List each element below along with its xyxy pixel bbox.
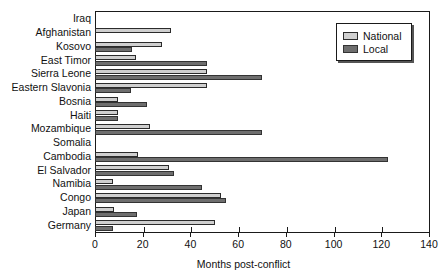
y-axis-label-mozambique: Mozambique bbox=[0, 123, 91, 134]
bar-group-somalia bbox=[95, 136, 429, 150]
bar-local-haiti bbox=[95, 116, 118, 121]
bar-group-el-salvador bbox=[95, 163, 429, 177]
y-axis-label-east-timor: East Timor bbox=[0, 55, 91, 66]
bar-group-sierra-leone bbox=[95, 67, 429, 81]
y-axis-label-afghanistan: Afghanistan bbox=[0, 27, 91, 38]
bar-national-el-salvador bbox=[95, 165, 169, 170]
x-tick-label-120: 120 bbox=[373, 238, 391, 250]
bar-national-east-timor bbox=[95, 55, 136, 60]
y-axis-label-somalia: Somalia bbox=[0, 137, 91, 148]
x-tick-label-20: 20 bbox=[137, 238, 149, 250]
bar-national-afghanistan bbox=[95, 28, 171, 33]
x-tick-label-0: 0 bbox=[92, 238, 98, 250]
bar-group-haiti bbox=[95, 108, 429, 122]
y-axis-label-cambodia: Cambodia bbox=[0, 151, 91, 162]
bar-national-sierra-leone bbox=[95, 69, 207, 74]
legend-swatch-national-icon bbox=[343, 32, 358, 40]
x-tick-120 bbox=[381, 233, 382, 237]
x-tick-140 bbox=[429, 233, 430, 237]
x-tick-100 bbox=[334, 233, 335, 237]
y-axis-label-el-salvador: El Salvador bbox=[0, 165, 91, 176]
bar-group-eastern-slavonia bbox=[95, 81, 429, 95]
bar-local-germany bbox=[95, 226, 113, 231]
y-axis-label-sierra-leone: Sierra Leone bbox=[0, 68, 91, 79]
y-axis-label-kosovo: Kosovo bbox=[0, 41, 91, 52]
y-axis-label-germany: Germany bbox=[0, 220, 91, 231]
bar-local-namibia bbox=[95, 185, 202, 190]
bar-group-bosnia bbox=[95, 95, 429, 109]
y-axis-label-bosnia: Bosnia bbox=[0, 96, 91, 107]
x-tick-label-60: 60 bbox=[232, 238, 244, 250]
bar-group-namibia bbox=[95, 177, 429, 191]
bar-local-sierra-leone bbox=[95, 75, 262, 80]
bar-group-japan bbox=[95, 205, 429, 219]
bar-local-eastern-slavonia bbox=[95, 88, 131, 93]
x-tick-40 bbox=[190, 233, 191, 237]
x-tick-0 bbox=[95, 233, 96, 237]
x-tick-label-140: 140 bbox=[420, 238, 438, 250]
x-axis-title: Months post-conflict bbox=[0, 258, 442, 270]
x-tick-label-80: 80 bbox=[280, 238, 292, 250]
bar-group-mozambique bbox=[95, 122, 429, 136]
legend-label-national: National bbox=[363, 30, 402, 42]
x-tick-label-100: 100 bbox=[325, 238, 343, 250]
x-tick-label-40: 40 bbox=[185, 238, 197, 250]
bar-national-germany bbox=[95, 220, 215, 225]
bar-national-cambodia bbox=[95, 152, 138, 157]
bar-group-congo bbox=[95, 191, 429, 205]
bar-local-el-salvador bbox=[95, 171, 174, 176]
bar-national-haiti bbox=[95, 110, 118, 115]
y-axis-category-labels: IraqAfghanistanKosovoEast TimorSierra Le… bbox=[0, 12, 91, 232]
x-tick-60 bbox=[238, 233, 239, 237]
bar-group-cambodia bbox=[95, 150, 429, 164]
legend: National Local bbox=[336, 23, 412, 61]
bar-group-germany bbox=[95, 218, 429, 232]
bar-national-mozambique bbox=[95, 124, 150, 129]
bar-national-kosovo bbox=[95, 42, 162, 47]
y-axis-label-eastern-slavonia: Eastern Slavonia bbox=[0, 82, 91, 93]
bar-national-namibia bbox=[95, 179, 113, 184]
y-axis-label-japan: Japan bbox=[0, 206, 91, 217]
bar-national-bosnia bbox=[95, 97, 118, 102]
x-tick-80 bbox=[286, 233, 287, 237]
y-axis-label-haiti: Haiti bbox=[0, 110, 91, 121]
bar-local-japan bbox=[95, 212, 137, 217]
legend-swatch-local-icon bbox=[343, 45, 358, 53]
bar-national-japan bbox=[95, 207, 114, 212]
bar-local-cambodia bbox=[95, 157, 388, 162]
y-axis-label-congo: Congo bbox=[0, 192, 91, 203]
legend-item-local: Local bbox=[343, 42, 405, 55]
y-axis-label-namibia: Namibia bbox=[0, 178, 91, 189]
x-tick-20 bbox=[143, 233, 144, 237]
legend-item-national: National bbox=[343, 29, 405, 42]
y-axis-label-iraq: Iraq bbox=[0, 13, 91, 24]
bar-national-eastern-slavonia bbox=[95, 83, 207, 88]
bar-local-congo bbox=[95, 198, 226, 203]
bar-local-kosovo bbox=[95, 47, 132, 52]
bar-local-bosnia bbox=[95, 102, 147, 107]
bar-national-congo bbox=[95, 193, 221, 198]
bar-local-mozambique bbox=[95, 130, 262, 135]
bar-chart: IraqAfghanistanKosovoEast TimorSierra Le… bbox=[0, 0, 442, 280]
legend-label-local: Local bbox=[363, 43, 388, 55]
bar-local-east-timor bbox=[95, 61, 207, 66]
